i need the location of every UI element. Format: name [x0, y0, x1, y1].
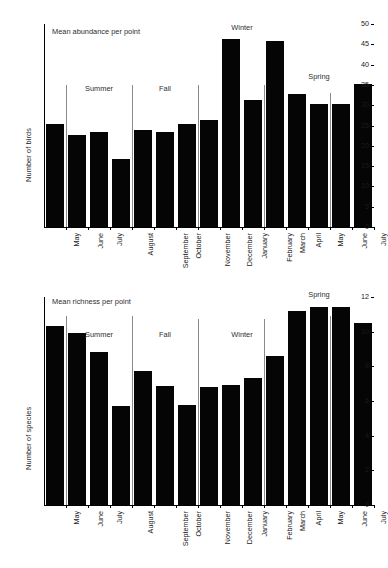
- bar: [156, 386, 174, 505]
- bar: [222, 385, 240, 505]
- y-tick-label: 30: [361, 100, 369, 109]
- y-tick-mark: [371, 126, 374, 127]
- bar: [200, 120, 218, 227]
- x-tick-label: November: [223, 233, 232, 266]
- chart-panel-richness: Number of species 024681012SummerFallWin…: [0, 285, 384, 568]
- season-separator: [330, 93, 331, 227]
- y-tick-mark: [371, 166, 374, 167]
- x-tick-mark: [176, 505, 177, 508]
- x-tick-mark: [286, 505, 287, 508]
- y-tick-label: 4: [365, 431, 369, 440]
- bar: [288, 94, 306, 227]
- x-tick-mark: [242, 227, 243, 230]
- season-separator: [330, 316, 331, 505]
- bar: [68, 333, 86, 505]
- x-tick-label: June: [96, 233, 105, 249]
- x-tick-label: July: [379, 511, 388, 524]
- bar-series-richness: [44, 297, 374, 505]
- bar: [310, 307, 328, 505]
- season-label: Fall: [159, 330, 171, 339]
- x-axis-top: [44, 227, 374, 228]
- season-label: Summer: [85, 330, 113, 339]
- bar: [46, 124, 64, 227]
- x-tick-mark: [66, 227, 67, 230]
- x-tick-label: May: [72, 511, 81, 525]
- y-tick-mark: [371, 65, 374, 66]
- y-tick-label: 12: [361, 292, 369, 301]
- x-tick-mark: [66, 505, 67, 508]
- season-label: Winter: [231, 23, 252, 32]
- season-label: Spring: [308, 290, 329, 299]
- bar: [178, 405, 196, 505]
- x-tick-label: June: [360, 233, 369, 249]
- season-separator: [264, 319, 265, 505]
- x-tick-label: August: [146, 233, 155, 255]
- y-axis-bottom: [44, 297, 45, 505]
- season-separator: [132, 316, 133, 505]
- season-label: Fall: [159, 84, 171, 93]
- y-tick-label: 20: [361, 141, 369, 150]
- x-tick-mark: [220, 505, 221, 508]
- y-tick-mark: [371, 332, 374, 333]
- season-separator: [66, 316, 67, 505]
- y-tick-mark: [371, 401, 374, 402]
- x-tick-mark: [110, 227, 111, 230]
- y-tick-label: 2: [365, 465, 369, 474]
- x-tick-label: February: [285, 233, 294, 262]
- x-tick-mark: [308, 227, 309, 230]
- y-tick-label: 5: [365, 202, 369, 211]
- x-tick-mark: [154, 227, 155, 230]
- bar: [156, 132, 174, 227]
- x-tick-label: January: [260, 511, 269, 537]
- bar: [90, 132, 108, 227]
- season-separator: [264, 85, 265, 227]
- x-tick-label: October: [194, 511, 203, 537]
- x-tick-label: July: [115, 233, 124, 246]
- x-tick-label: July: [115, 511, 124, 524]
- x-tick-mark: [220, 227, 221, 230]
- bar-series-abundance: [44, 24, 374, 227]
- season-separator: [198, 319, 199, 505]
- bar: [266, 356, 284, 505]
- y-tick-mark: [371, 44, 374, 45]
- plot-area-abundance: 05101520253035404550SummerFallWinterSpri…: [44, 24, 374, 227]
- y-tick-label: 35: [361, 80, 369, 89]
- y-tick-mark: [371, 436, 374, 437]
- x-tick-label: January: [260, 233, 269, 259]
- x-tick-mark: [132, 505, 133, 508]
- x-tick-mark: [88, 505, 89, 508]
- x-tick-label: February: [285, 511, 294, 540]
- y-axis-label-bottom: Number of species: [24, 407, 33, 470]
- bar: [178, 124, 196, 227]
- bar: [46, 326, 64, 505]
- x-tick-label: May: [336, 511, 345, 525]
- x-tick-label: May: [336, 233, 345, 247]
- x-tick-mark: [308, 505, 309, 508]
- x-tick-mark: [330, 227, 331, 230]
- x-tick-label: June: [360, 511, 369, 527]
- y-tick-label: 10: [361, 181, 369, 190]
- x-tick-label: November: [223, 511, 232, 544]
- x-tick-mark: [242, 505, 243, 508]
- y-tick-mark: [371, 186, 374, 187]
- y-tick-mark: [371, 470, 374, 471]
- chart-panel-abundance: Number of birds 05101520253035404550Summ…: [0, 0, 384, 290]
- bar: [112, 159, 130, 227]
- y-tick-label: 8: [365, 361, 369, 370]
- bar: [90, 352, 108, 505]
- bar: [354, 323, 372, 505]
- x-tick-label: March: [298, 511, 307, 531]
- season-label: Winter: [231, 330, 252, 339]
- x-tick-label: September: [181, 233, 190, 268]
- y-axis-top: [44, 24, 45, 227]
- y-tick-mark: [371, 146, 374, 147]
- x-tick-label: September: [181, 511, 190, 546]
- x-tick-mark: [198, 227, 199, 230]
- y-tick-mark: [371, 207, 374, 208]
- bar: [244, 100, 262, 227]
- season-separator: [66, 85, 67, 227]
- y-tick-mark: [371, 85, 374, 86]
- x-tick-mark: [264, 505, 265, 508]
- y-tick-mark: [371, 24, 374, 25]
- bar: [332, 104, 350, 227]
